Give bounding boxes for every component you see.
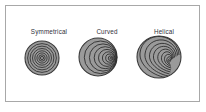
shell-diagram-helical [135,33,185,83]
spiral-apex-helical [169,60,171,62]
shell-diagram-curved [78,36,120,78]
shell-diagram-symmetrical [24,40,60,76]
shell-coiling-figure: Symmetrical Curved Helical [0,0,206,112]
panel-label-symmetrical: Symmetrical [31,28,67,35]
panel-label-curved: Curved [96,28,117,35]
